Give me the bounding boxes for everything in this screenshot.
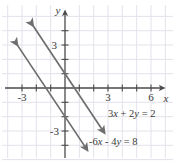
equation-label-1: 3x + 2y = 2 [108,108,155,119]
coordinate-plane-svg: -3 3 6 3 -3 x y 3x + 2y = 2 -6x - 4y = 8 [0,0,175,163]
graph-figure: -3 3 6 3 -3 x y 3x + 2y = 2 -6x - 4y = 8 [0,0,175,163]
equation-label-2: -6x - 4y = 8 [89,136,138,147]
x-tick-label-3: 3 [105,91,111,103]
figure-background [0,0,175,163]
y-axis-label: y [55,4,61,16]
x-tick-label-neg3: -3 [17,91,27,103]
y-tick-label-neg3: -3 [50,125,60,137]
y-tick-label-3: 3 [52,39,58,51]
x-axis-label: x [163,92,169,104]
x-tick-label-6: 6 [148,91,154,103]
